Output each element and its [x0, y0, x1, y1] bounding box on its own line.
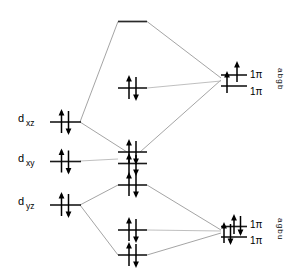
- electron-up-arrowhead: [59, 192, 65, 199]
- electron-down-arrowhead: [228, 239, 234, 246]
- electron-down-arrowhead: [133, 192, 139, 199]
- rotated-label-top-text: abgb: [276, 68, 285, 91]
- electron-down-arrowhead: [133, 237, 139, 244]
- rotated-label-top-stack: abgb: [276, 68, 285, 91]
- electron-up-arrowhead: [126, 172, 132, 179]
- electron-up-arrowhead: [126, 242, 132, 249]
- label-dyz-main: d: [18, 195, 24, 207]
- rotated-label-bottom-text: agbu: [276, 218, 285, 241]
- correlation-line-midlower-a-to-right: [147, 185, 221, 230]
- electron-up-arrowhead: [59, 149, 65, 156]
- label-pi-top-upper: 1π: [250, 69, 263, 80]
- electron-up-arrowhead: [126, 139, 132, 146]
- correlation-lines-group: [80, 22, 221, 256]
- electron-down-arrowhead: [238, 230, 244, 237]
- correlation-line-dxy-flat: [80, 159, 118, 161]
- electron-up-arrowhead: [126, 217, 132, 224]
- label-dxz-sub: xz: [26, 118, 35, 128]
- electron-single-right-top-upper: [234, 61, 240, 82]
- label-pi-top-lower: 1π: [250, 86, 263, 97]
- correlation-line-midlower-c-to-right: [147, 233, 221, 255]
- right-labels-group: 1π 1π 1π 1π: [250, 69, 263, 246]
- correlation-line-midupper-flat: [147, 81, 221, 88]
- electron-pair-right-bot-upper: [231, 214, 243, 236]
- correlation-line-midlower-b-flat: [147, 230, 221, 231]
- rotated-label-bottom-stack: agbu: [276, 218, 285, 241]
- correlation-line-dyz-to-midlower-a: [80, 185, 118, 205]
- label-dxy-sub: xy: [26, 158, 35, 168]
- mo-diagram-canvas: d xz d xy d yz 1π 1π 1π 1π abgb agbu: [0, 0, 287, 277]
- electron-up-arrowhead: [234, 61, 240, 68]
- mo-diagram-svg: d xz d xy d yz 1π 1π 1π 1π abgb agbu: [0, 0, 287, 277]
- electron-pair-xy-lower: [126, 153, 139, 176]
- electron-down-arrowhead: [133, 262, 139, 269]
- middle-levels-group: [118, 22, 147, 256]
- correlation-line-xy-node-to-right: [140, 80, 221, 152]
- label-dxy-main: d: [18, 152, 24, 164]
- electron-up-arrowhead: [126, 153, 132, 160]
- electron-up-arrowhead: [126, 75, 132, 82]
- electron-down-arrowhead: [66, 168, 72, 175]
- right-levels-group: [221, 75, 247, 237]
- left-labels-group: d xz d xy d yz: [18, 112, 35, 211]
- label-dyz-sub: yz: [26, 201, 35, 211]
- correlation-line-dxz-to-xy-node: [80, 122, 127, 152]
- correlation-line-dxz-to-top: [80, 22, 118, 123]
- electron-up-arrowhead: [59, 109, 65, 116]
- electron-down-arrowhead: [66, 129, 72, 136]
- electron-down-arrowhead: [66, 212, 72, 219]
- electron-up-arrowhead: [221, 222, 227, 229]
- electron-down-arrowhead: [133, 95, 139, 102]
- label-pi-bot-lower: 1π: [250, 235, 263, 246]
- electron-pair-right-bot-lower: [221, 222, 233, 245]
- left-levels-group: [50, 122, 81, 205]
- correlation-line-top-to-right: [147, 22, 221, 79]
- label-dxz-main: d: [18, 112, 24, 124]
- correlation-line-dyz-to-midlower-c: [80, 205, 118, 255]
- label-pi-bot-upper: 1π: [250, 219, 263, 230]
- electron-up-arrowhead: [231, 214, 237, 221]
